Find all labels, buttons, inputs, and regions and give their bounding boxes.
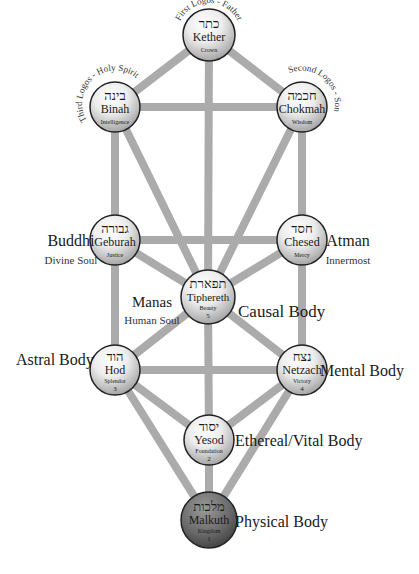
hebrew-name: חכמה [287, 88, 316, 103]
sephirah-kether: כתרKetherCrown [183, 9, 235, 61]
sephirah-meaning: Crown [201, 47, 217, 53]
sephirah-meaning: Foundation [195, 448, 222, 454]
manas-label: Manas Human Soul [121, 294, 183, 326]
sephirah-meaning: Justice [107, 252, 124, 258]
sephirah-meaning: Beauty [200, 305, 217, 311]
hebrew-name: הוד [106, 349, 123, 364]
hebrew-name: מלכות [193, 499, 225, 514]
hebrew-name: תפארת [190, 276, 227, 291]
sephirah-yesod: יסודYesodFoundation2 [184, 415, 234, 465]
hebrew-name: יסוד [199, 419, 219, 434]
sephirah-hod: הודHodSplendor3 [90, 345, 140, 395]
astral-body-label: Astral Body [16, 351, 94, 369]
sephirah-malkuth: מלכותMalkuthKingdom1 [181, 492, 237, 548]
sephirah-number: 3 [113, 385, 117, 393]
atman-title: Atman [316, 232, 380, 250]
sephirah-binah: בינהBinahIntelligence [90, 82, 140, 132]
sephirah-meaning: Victory [293, 378, 311, 384]
buddhi-label: Buddhi Divine Soul [36, 232, 106, 266]
hebrew-name: בינה [104, 88, 125, 103]
mental-body-label: Mental Body [320, 362, 404, 380]
sephirah-meaning: Kingdom [198, 528, 221, 534]
hebrew-name: כתר [199, 16, 220, 31]
sephirah-name: Tiphereth [187, 291, 230, 303]
sephirah-chokmah: חכמהChokmahWisdom [277, 82, 327, 132]
ethereal-body-label: Ethereal/Vital Body [235, 432, 362, 450]
sephirah-meaning: Intelligence [101, 119, 130, 125]
sephirah-number: 1 [207, 535, 211, 543]
sephirah-number: 4 [300, 385, 304, 393]
hebrew-name: חסד [291, 221, 312, 236]
atman-label: Atman Innermost [316, 232, 380, 266]
buddhi-title: Buddhi [36, 232, 106, 250]
atman-subtitle: Innermost [316, 254, 380, 266]
buddhi-subtitle: Divine Soul [36, 254, 106, 266]
sephirah-meaning: Mercy [294, 252, 310, 258]
sephirah-name: Chokmah [279, 102, 326, 116]
sephirah-meaning: Wisdom [292, 119, 312, 125]
path-kether-tiphereth [208, 35, 209, 297]
physical-body-label: Physical Body [235, 513, 328, 531]
manas-title: Manas [121, 294, 183, 311]
manas-subtitle: Human Soul [121, 314, 183, 326]
sephirah-name: Malkuth [189, 513, 230, 527]
hebrew-name: נצח [293, 349, 312, 364]
sephirah-number: 2 [207, 455, 211, 463]
sephirah-name: Kether [193, 30, 226, 44]
sephirah-name: Netzach [282, 363, 321, 377]
sephirah-name: Hod [105, 363, 126, 377]
sephirah-name: Chesed [284, 235, 319, 249]
sephirah-name: Yesod [194, 433, 223, 447]
sephirah-number: 5 [206, 312, 210, 320]
tree-of-life-diagram: First Logos - Father Third Logos - Holy … [0, 0, 419, 574]
sephirah-name: Binah [101, 102, 130, 116]
sephirah-meaning: Splendor [104, 378, 126, 384]
causal-body-label: Causal Body [238, 302, 325, 322]
sephirah-tiphereth: תפארתTipherethBeauty5 [181, 270, 235, 324]
